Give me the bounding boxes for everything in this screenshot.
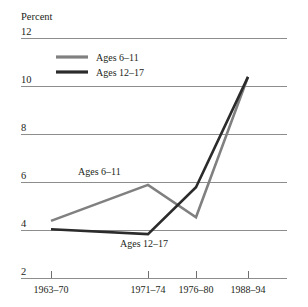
chart-background <box>0 0 308 307</box>
y-tick-label-6: 6 <box>21 170 26 181</box>
y-tick-label-10: 10 <box>21 74 32 85</box>
x-tick-label-1963-70: 1963–70 <box>34 284 69 295</box>
y-tick-label-8: 8 <box>21 122 26 133</box>
x-tick-label-1971-74: 1971–74 <box>131 284 166 295</box>
line-chart: Percent 12 10 8 6 4 2 1963–70 <box>0 0 308 307</box>
y-axis-unit-label: Percent <box>21 11 53 22</box>
chart-figure: Percent 12 10 8 6 4 2 1963–70 <box>0 0 308 307</box>
y-tick-label-2: 2 <box>21 266 26 277</box>
legend-label-ages-6-11: Ages 6–11 <box>96 52 139 63</box>
annotation-ages-12-17: Ages 12–17 <box>120 238 168 249</box>
x-tick-label-1976-80: 1976–80 <box>179 284 214 295</box>
x-axis-tick-labels: 1963–70 1971–74 1976–80 1988–94 <box>34 284 266 295</box>
annotation-ages-6-11: Ages 6–11 <box>78 166 121 177</box>
y-tick-label-4: 4 <box>21 218 27 229</box>
y-tick-label-12: 12 <box>21 26 32 37</box>
legend-label-ages-12-17: Ages 12–17 <box>96 67 144 78</box>
x-tick-label-1988-94: 1988–94 <box>231 284 266 295</box>
